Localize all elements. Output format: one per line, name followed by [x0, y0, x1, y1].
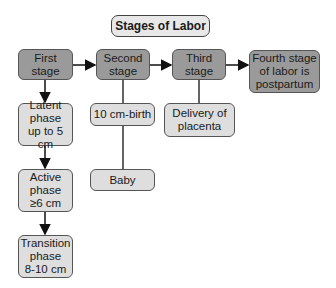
- fourth-stage-node: Fourth stage of labor is postpartum: [249, 50, 320, 93]
- ten-cm-birth-node: 10 cm-birth: [90, 103, 155, 126]
- transition-phase-node: Transition phase 8-10 cm: [18, 235, 73, 278]
- third-stage-node: Third stage: [172, 49, 226, 80]
- delivery-of-placenta-node: Delivery of placenta: [164, 103, 235, 137]
- first-stage-node: First stage: [18, 49, 73, 80]
- diagram-title: Stages of Labor: [111, 15, 210, 37]
- second-stage-node: Second stage: [96, 49, 150, 80]
- latent-phase-node: Latent phase up to 5 cm: [18, 103, 73, 146]
- active-phase-node: Active phase ≥6 cm: [18, 169, 73, 212]
- baby-node: Baby: [90, 169, 155, 191]
